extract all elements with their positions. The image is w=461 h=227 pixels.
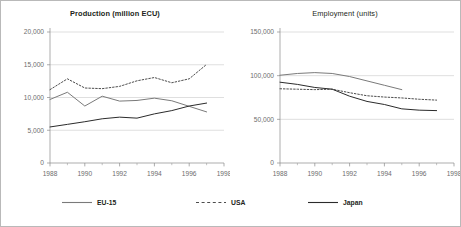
x-tick-label: 1990 — [77, 170, 92, 177]
chart-panel-production: Production (million ECU) 05,00010,00015,… — [0, 0, 230, 186]
legend-swatch-usa — [196, 199, 226, 206]
plot-area-production: 05,00010,00015,00020,0001988199019921994… — [0, 0, 230, 186]
y-tick-label: 15,000 — [24, 61, 45, 68]
y-tick-label: 0 — [270, 159, 274, 166]
x-tick-label: 1998 — [217, 170, 230, 177]
x-tick-label: 1988 — [273, 170, 288, 177]
x-tick-label: 1992 — [342, 170, 357, 177]
legend-swatch-japan — [308, 199, 338, 206]
legend-label-eu-15: EU-15 — [97, 199, 116, 206]
x-tick-label: 1992 — [112, 170, 127, 177]
series-line-eu-15 — [50, 92, 207, 112]
series-line-japan — [50, 103, 207, 127]
legend-item-eu-15: EU-15 — [62, 199, 116, 206]
x-tick-label: 1990 — [307, 170, 322, 177]
x-tick-label: 1994 — [377, 170, 392, 177]
legend-item-japan: Japan — [308, 199, 363, 206]
legend-swatch-eu-15 — [62, 199, 92, 206]
chart-legend: EU-15 USA Japan — [0, 186, 460, 226]
y-tick-label: 0 — [40, 159, 44, 166]
legend-label-usa: USA — [231, 199, 245, 206]
y-tick-label: 20,000 — [24, 28, 45, 35]
x-tick-label: 1998 — [447, 170, 460, 177]
legend-item-usa: USA — [196, 199, 245, 206]
production-line-chart: 05,00010,00015,00020,0001988199019921994… — [0, 0, 230, 186]
x-tick-label: 1996 — [412, 170, 427, 177]
x-tick-label: 1996 — [182, 170, 197, 177]
series-line-japan — [280, 82, 437, 110]
y-tick-label: 150,000 — [250, 28, 274, 35]
series-line-eu-15 — [280, 73, 402, 90]
series-line-usa — [50, 64, 207, 89]
x-tick-label: 1994 — [147, 170, 162, 177]
employment-line-chart: 050,000100,000150,0001988199019921994199… — [230, 0, 460, 186]
y-tick-label: 5,000 — [27, 127, 44, 134]
x-tick-label: 1988 — [43, 170, 58, 177]
plot-area-employment: 050,000100,000150,0001988199019921994199… — [230, 0, 460, 186]
y-tick-label: 100,000 — [250, 72, 274, 79]
chart-panel-employment: Employment (units) 050,000100,000150,000… — [230, 0, 460, 186]
legend-label-japan: Japan — [343, 199, 363, 206]
y-tick-label: 10,000 — [24, 94, 45, 101]
y-tick-label: 50,000 — [254, 116, 275, 123]
